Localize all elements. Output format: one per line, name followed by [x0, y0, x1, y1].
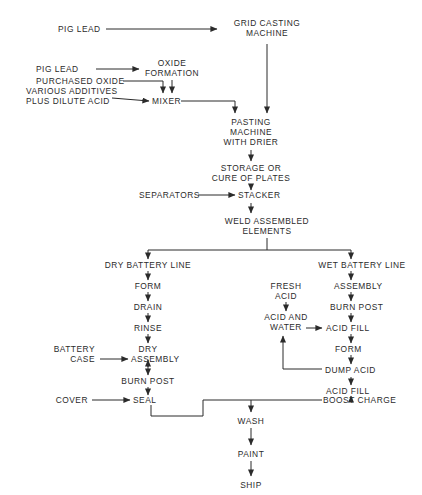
node-various-additives-line1: VARIOUS ADDITIVES — [26, 86, 118, 96]
node-wet-acid-fill-1: ACID FILL — [326, 323, 370, 333]
node-purchased-oxide: PURCHASED OXIDE — [36, 76, 124, 86]
node-paint: PAINT — [238, 449, 265, 459]
node-dry-rinse: RINSE — [134, 323, 162, 333]
node-wet-battery-line: WET BATTERY LINE — [318, 260, 405, 270]
flowchart-page: PIG LEAD GRID CASTING MACHINE PIG LEAD O… — [0, 0, 422, 495]
node-cover: COVER — [56, 395, 88, 405]
node-pasting-machine-line1: PASTING — [231, 117, 271, 127]
edge-dump-acid-recycle-loop — [283, 336, 322, 369]
edge-various-additives-to-mixer — [112, 98, 149, 101]
node-pig-lead-2: PIG LEAD — [36, 64, 79, 74]
edge-purchased-oxide-to-mixer — [123, 81, 163, 93]
node-grid-casting-line1: GRID CASTING — [234, 18, 301, 28]
node-wet-burn-post: BURN POST — [330, 302, 383, 312]
node-dry-dry: DRY — [138, 344, 157, 354]
node-dry-assembly: ASSEMBLY — [131, 354, 180, 364]
node-fresh-acid-line2: ACID — [275, 291, 297, 301]
node-wet-form: FORM — [335, 344, 362, 354]
node-boost-charge: BOOST CHARGE — [323, 395, 396, 405]
node-grid-casting-line2: MACHINE — [246, 28, 288, 38]
node-seal: SEAL — [133, 395, 156, 405]
edge-seal-to-merge-line — [151, 400, 203, 416]
node-fresh-acid-line1: FRESH — [271, 281, 302, 291]
node-battery-case-line1: BATTERY — [54, 344, 95, 354]
node-weld-assembled-line1: WELD ASSEMBLED — [225, 216, 309, 226]
node-storage-line2: CURE OF PLATES — [212, 173, 291, 183]
node-pasting-machine-line3: WITH DRIER — [224, 137, 279, 147]
node-weld-assembled-line2: ELEMENTS — [242, 226, 291, 236]
node-pig-lead-1: PIG LEAD — [58, 24, 101, 34]
node-acid-and-water-line2: WATER — [270, 322, 302, 332]
node-wet-assembly: ASSEMBLY — [334, 281, 383, 291]
node-separators: SEPARATORS — [139, 190, 200, 200]
process-flow-diagram: PIG LEAD GRID CASTING MACHINE PIG LEAD O… — [0, 0, 422, 495]
node-oxide-formation-line1: OXIDE — [158, 58, 187, 68]
node-mixer: MIXER — [152, 96, 181, 106]
node-acid-and-water-line1: ACID AND — [264, 312, 308, 322]
node-stacker: STACKER — [238, 190, 280, 200]
node-storage-line1: STORAGE OR — [221, 163, 282, 173]
node-battery-case-line2: CASE — [70, 354, 95, 364]
node-dry-drain: DRAIN — [134, 302, 163, 312]
node-ship: SHIP — [240, 480, 262, 490]
node-dry-form: FORM — [135, 281, 162, 291]
node-dry-burn-post: BURN POST — [121, 376, 174, 386]
node-various-additives-line2: PLUS DILUTE ACID — [26, 96, 110, 106]
node-dry-battery-line: DRY BATTERY LINE — [105, 260, 191, 270]
node-pasting-machine-line2: MACHINE — [230, 127, 272, 137]
node-oxide-formation-line2: FORMATION — [145, 68, 199, 78]
node-dump-acid: DUMP ACID — [325, 365, 376, 375]
node-wash: WASH — [238, 416, 265, 426]
edge-mixer-to-pasting-machine — [181, 101, 235, 113]
